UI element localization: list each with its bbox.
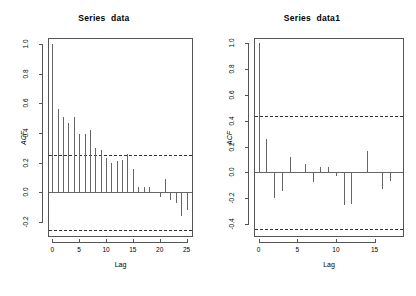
- y-axis-tick-label: 0.8: [227, 59, 237, 79]
- x-axis-tick-label: 15: [123, 246, 143, 253]
- y-axis-tick: [39, 74, 43, 75]
- acf-bar: [297, 172, 298, 173]
- acf-bar: [266, 139, 267, 172]
- acf-panel-series-data: Series data -0.20.00.20.40.60.81.0051015…: [0, 0, 208, 296]
- confidence-band-line: [255, 116, 403, 117]
- acf-bar: [313, 172, 314, 182]
- confidence-band-line: [49, 155, 192, 156]
- y-axis-tick-label: -0.2: [227, 188, 237, 208]
- panel-title-right: Series data1: [208, 13, 416, 23]
- acf-bar: [74, 117, 75, 193]
- acf-bar: [305, 164, 306, 172]
- x-axis-tick: [259, 239, 260, 243]
- x-axis-tick-label: 0: [249, 246, 269, 253]
- acf-bar: [90, 130, 91, 192]
- panel-title-left: Series data: [0, 13, 208, 23]
- acf-bar: [187, 192, 188, 210]
- acf-bar: [138, 187, 139, 192]
- y-axis-tick: [245, 69, 249, 70]
- acf-bar: [63, 117, 64, 193]
- y-axis-title-left: ACF: [19, 118, 29, 158]
- acf-bar: [122, 160, 123, 193]
- x-axis-tick-label: 25: [177, 246, 197, 253]
- acf-bar: [336, 172, 337, 176]
- acf-bar: [144, 187, 145, 193]
- y-axis-tick-label: 0.0: [227, 162, 237, 182]
- y-axis-tick: [245, 172, 249, 173]
- plot-frame-right: [254, 38, 404, 237]
- acf-bar: [101, 150, 102, 192]
- acf-bar: [382, 172, 383, 189]
- acf-bar: [149, 187, 150, 193]
- y-axis-tick: [39, 44, 43, 45]
- x-axis-tick-label: 5: [69, 246, 89, 253]
- y-axis-tick-label: 1.0: [21, 34, 31, 54]
- y-axis-tick: [245, 198, 249, 199]
- y-axis-tick: [39, 222, 43, 223]
- x-axis-tick: [336, 239, 337, 243]
- acf-bar: [68, 123, 69, 192]
- x-axis-tick-label: 15: [365, 246, 385, 253]
- x-axis-line: [259, 242, 375, 243]
- y-axis-tick-label: 0.6: [227, 85, 237, 105]
- acf-bar: [127, 154, 128, 193]
- y-axis-tick-label: 0.6: [21, 93, 31, 113]
- acf-bar: [290, 157, 291, 173]
- acf-bar: [328, 167, 329, 172]
- acf-bar: [181, 192, 182, 216]
- acf-bar: [52, 44, 53, 193]
- x-axis-line: [52, 242, 186, 243]
- x-axis-tick: [160, 239, 161, 243]
- y-axis-tick: [245, 43, 249, 44]
- x-axis-tick-label: 20: [150, 246, 170, 253]
- acf-bar: [344, 172, 345, 204]
- x-axis-tick: [133, 239, 134, 243]
- confidence-band-line: [255, 229, 403, 230]
- y-axis-title-right: ACF: [225, 118, 235, 158]
- x-axis-tick: [297, 239, 298, 243]
- acf-bar: [79, 134, 80, 193]
- acf-bar: [133, 169, 134, 192]
- acf-bar: [106, 158, 107, 193]
- acf-bar: [390, 172, 391, 181]
- acf-bar: [85, 134, 86, 193]
- y-axis-tick: [245, 121, 249, 122]
- x-axis-tick: [52, 239, 53, 243]
- x-axis-tick: [375, 239, 376, 243]
- acf-bar: [117, 161, 118, 192]
- y-axis-line: [248, 43, 249, 224]
- x-axis-tick: [106, 239, 107, 243]
- x-axis-title-left: Lag: [48, 261, 193, 268]
- acf-bar: [259, 43, 260, 172]
- y-axis-tick: [39, 133, 43, 134]
- y-axis-tick-label: -0.2: [21, 212, 31, 232]
- plot-frame-left: [48, 38, 193, 237]
- y-axis-tick: [245, 224, 249, 225]
- y-axis-tick: [245, 147, 249, 148]
- acf-bar: [95, 148, 96, 193]
- acf-bar: [160, 192, 161, 196]
- x-axis-tick-label: 5: [287, 246, 307, 253]
- y-axis-tick: [245, 95, 249, 96]
- acf-bar: [165, 179, 166, 192]
- zero-reference-line: [255, 172, 403, 173]
- acf-bar: [176, 192, 177, 202]
- x-axis-tick-label: 10: [96, 246, 116, 253]
- y-axis-tick-label: 0.0: [21, 182, 31, 202]
- figure-canvas: Series data -0.20.00.20.40.60.81.0051015…: [0, 0, 416, 296]
- y-axis-tick: [39, 103, 43, 104]
- x-axis-tick: [187, 239, 188, 243]
- acf-bar: [58, 109, 59, 193]
- x-axis-title-right: Lag: [254, 261, 404, 268]
- x-axis-tick-label: 0: [42, 246, 62, 253]
- x-axis-tick-label: 10: [326, 246, 346, 253]
- acf-bar: [170, 192, 171, 199]
- acf-panel-series-data1: Series data1 -0.4-0.20.00.20.40.60.81.00…: [208, 0, 416, 296]
- y-axis-tick-label: 1.0: [227, 33, 237, 53]
- acf-bar: [111, 163, 112, 193]
- acf-bar: [367, 151, 368, 172]
- y-axis-tick: [39, 163, 43, 164]
- y-axis-tick-label: -0.4: [227, 214, 237, 234]
- x-axis-tick: [79, 239, 80, 243]
- acf-bar: [282, 172, 283, 191]
